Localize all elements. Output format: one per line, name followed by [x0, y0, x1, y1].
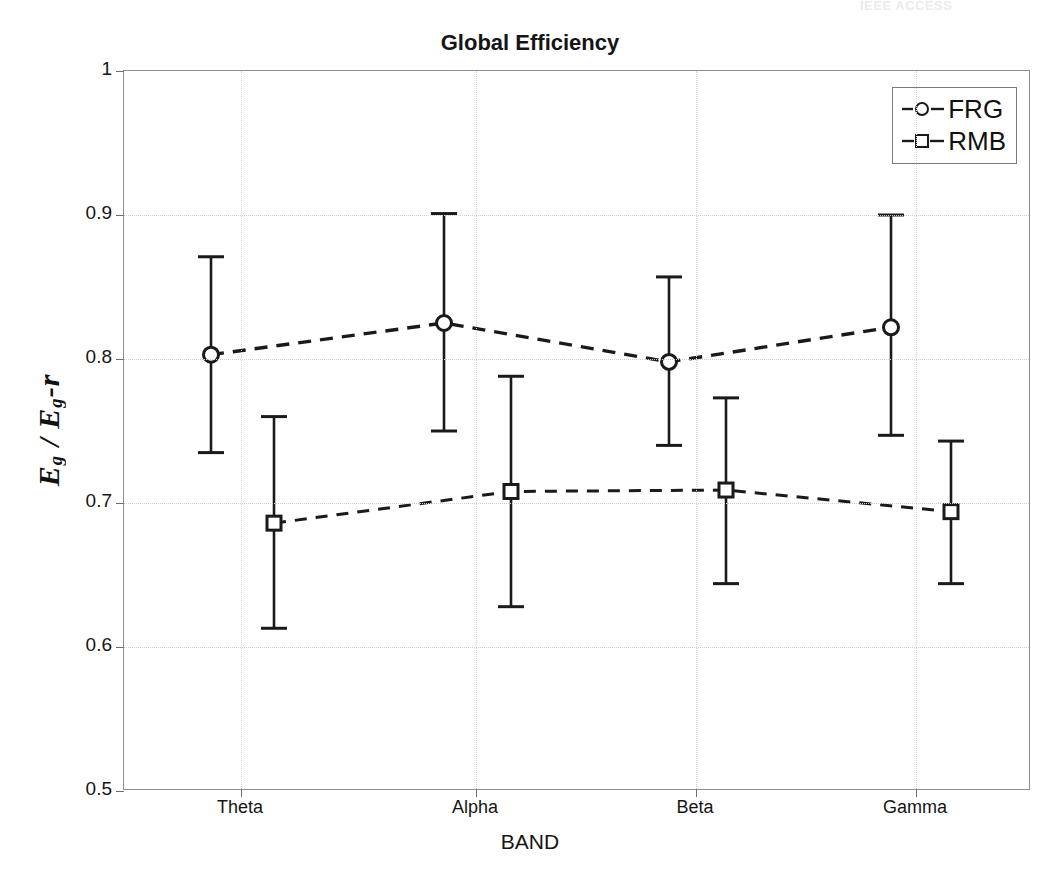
data-point-marker	[662, 354, 677, 369]
x-tick	[916, 789, 917, 797]
x-axis-title: BAND	[0, 830, 1060, 854]
y-tick-label: 0.6	[66, 634, 112, 656]
chart-legend: FRG RMB	[892, 87, 1017, 164]
y-axis-title-text: Eg / Eg-r	[32, 374, 65, 487]
series-layer	[124, 71, 1031, 791]
legend-key-square-icon	[901, 132, 945, 150]
y-tick	[116, 503, 124, 504]
gridline-vertical	[696, 71, 697, 789]
data-point-marker	[437, 316, 452, 331]
x-tick	[241, 789, 242, 797]
y-tick	[116, 647, 124, 648]
y-axis-title: Eg / Eg-r	[32, 374, 67, 487]
data-point-marker	[719, 483, 733, 497]
plot-area: FRG RMB Eg / Eg-r 0.50.60.70.80.91	[123, 70, 1030, 790]
gridline-vertical	[916, 71, 917, 789]
x-tick	[476, 789, 477, 797]
y-tick-label: 0.8	[66, 346, 112, 368]
journal-watermark: IEEE ACCESS	[860, 0, 1055, 12]
data-point-marker	[944, 505, 958, 519]
data-point-marker	[884, 320, 899, 335]
data-point-marker	[267, 516, 281, 530]
y-tick	[116, 791, 124, 792]
gridline-vertical	[241, 71, 242, 789]
x-tick-label: Alpha	[452, 797, 498, 818]
y-axis-title-wrap: Eg / Eg-r	[32, 374, 67, 487]
x-tick-label: Theta	[217, 797, 263, 818]
x-tick	[696, 789, 697, 797]
chart-figure: IEEE ACCESS Global Efficiency FRG RMB	[0, 0, 1060, 884]
y-tick-label: 0.9	[66, 202, 112, 224]
y-tick-label: 0.7	[66, 490, 112, 512]
y-tick	[116, 215, 124, 216]
y-tick-label: 1	[66, 58, 112, 80]
legend-key-circle-icon	[901, 100, 945, 118]
series-frg	[198, 214, 904, 453]
data-point-marker	[504, 484, 518, 498]
y-tick	[116, 71, 124, 72]
series-line-rmb	[274, 490, 951, 523]
gridline-horizontal	[124, 503, 1029, 504]
y-tick	[116, 359, 124, 360]
legend-label-rmb: RMB	[948, 128, 1006, 154]
gridline-horizontal	[124, 647, 1029, 648]
gridline-horizontal	[124, 215, 1029, 216]
y-tick-label: 0.5	[66, 778, 112, 800]
chart-title: Global Efficiency	[0, 30, 1060, 56]
series-line-frg	[211, 323, 891, 362]
gridline-vertical	[476, 71, 477, 789]
x-tick-label: Beta	[676, 797, 713, 818]
gridline-horizontal	[124, 359, 1029, 360]
x-tick-label: Gamma	[883, 797, 947, 818]
legend-label-frg: FRG	[948, 96, 1003, 122]
